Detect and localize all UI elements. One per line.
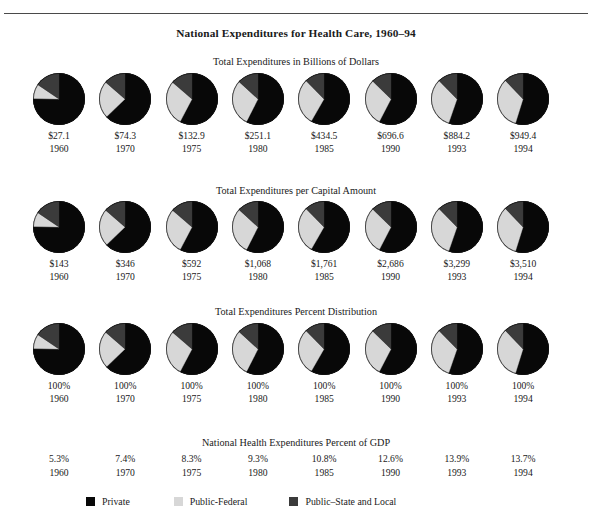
pie-value-label: 100%	[354, 379, 428, 392]
pie-value-label: $143	[22, 257, 96, 270]
pie-cell-percent-100-1980: 100%1980	[221, 323, 295, 405]
pie-cell-billions-743-1970: $74.31970	[88, 73, 162, 155]
pie-row-percent: 100%1960100%1970100%1975100%1980100%1985…	[0, 323, 592, 407]
gdp-year-label: 1970	[88, 466, 162, 480]
pie-cell-percent-100-1975: 100%1975	[155, 323, 229, 405]
gdp-value-label: 13.9%	[420, 452, 494, 466]
pie-year-label: 1985	[287, 392, 361, 405]
pie-year-label: 1980	[221, 142, 295, 155]
pie-cell-billions-4345-1985: $434.51985	[287, 73, 361, 155]
pie-value-label: 100%	[221, 379, 295, 392]
page-title: National Expenditures for Health Care, 1…	[0, 27, 592, 39]
pie-cell-per_capita-143-1960: $1431960	[22, 201, 96, 283]
pie-year-label: 1975	[155, 142, 229, 155]
gdp-year-label: 1980	[221, 466, 295, 480]
pie-year-label: 1985	[287, 142, 361, 155]
gdp-value-label: 5.3%	[22, 452, 96, 466]
legend-item-public-state-and-local: Public–State and Local	[289, 496, 396, 507]
pie-value-label: 100%	[420, 379, 494, 392]
pie-chart-percent-1990	[365, 323, 417, 375]
pie-year-label: 1990	[354, 270, 428, 283]
pie-value-label: $434.5	[287, 129, 361, 142]
pie-cell-percent-100-1993: 100%1993	[420, 323, 494, 405]
legend-swatch-private	[86, 497, 95, 506]
pie-year-label: 1993	[420, 142, 494, 155]
section-subtitle-percent: Total Expenditures Percent Distribution	[0, 306, 592, 317]
legend-label: Public–State and Local	[305, 496, 396, 507]
pie-chart-percent-1980	[232, 323, 284, 375]
pie-cell-billions-8842-1993: $884.21993	[420, 73, 494, 155]
pie-cell-per_capita-3299-1993: $3,2991993	[420, 201, 494, 283]
gdp-cell-1975: 8.3%1975	[155, 452, 229, 480]
pie-chart-billions-1980	[232, 73, 284, 125]
legend-label: Private	[102, 496, 130, 507]
section-subtitle-per-capita: Total Expenditures per Capital Amount	[0, 185, 592, 196]
pie-value-label: $346	[88, 257, 162, 270]
pie-year-label: 1960	[22, 392, 96, 405]
gdp-year-label: 1990	[354, 466, 428, 480]
pie-row-per-capita: $1431960$3461970$5921975$1,0681980$1,761…	[0, 201, 592, 285]
pie-cell-billions-9494-1994: $949.41994	[486, 73, 560, 155]
legend-item-private: Private	[86, 496, 130, 507]
gdp-cell-1994: 13.7%1994	[486, 452, 560, 480]
pie-chart-billions-1985	[298, 73, 350, 125]
gdp-year-label: 1994	[486, 466, 560, 480]
section-subtitle-gdp: National Health Expenditures Percent of …	[0, 437, 592, 448]
pie-year-label: 1970	[88, 270, 162, 283]
pie-chart-billions-1975	[166, 73, 218, 125]
legend-swatch-public-state-local	[289, 497, 298, 506]
pie-cell-per_capita-1068-1980: $1,0681980	[221, 201, 295, 283]
top-divider-rule	[4, 13, 588, 14]
pie-cell-billions-6966-1990: $696.61990	[354, 73, 428, 155]
gdp-cell-1980: 9.3%1980	[221, 452, 295, 480]
pie-cell-percent-100-1985: 100%1985	[287, 323, 361, 405]
gdp-year-label: 1975	[155, 466, 229, 480]
pie-chart-billions-1970	[99, 73, 151, 125]
pie-chart-percent-1985	[298, 323, 350, 375]
pie-chart-percent-1994	[497, 323, 549, 375]
pie-chart-per_capita-1990	[365, 201, 417, 253]
pie-value-label: 100%	[88, 379, 162, 392]
pie-chart-per_capita-1975	[166, 201, 218, 253]
gdp-cell-1960: 5.3%1960	[22, 452, 96, 480]
gdp-value-label: 10.8%	[287, 452, 361, 466]
pie-year-label: 1993	[420, 392, 494, 405]
gdp-cell-1985: 10.8%1985	[287, 452, 361, 480]
pie-cell-per_capita-346-1970: $3461970	[88, 201, 162, 283]
pie-chart-billions-1960	[33, 73, 85, 125]
pie-chart-per_capita-1980	[232, 201, 284, 253]
pie-value-label: $132.9	[155, 129, 229, 142]
pie-value-label: $696.6	[354, 129, 428, 142]
pie-chart-per_capita-1985	[298, 201, 350, 253]
pie-cell-per_capita-592-1975: $5921975	[155, 201, 229, 283]
pie-cell-billions-2511-1980: $251.11980	[221, 73, 295, 155]
pie-cell-percent-100-1970: 100%1970	[88, 323, 162, 405]
pie-chart-per_capita-1970	[99, 201, 151, 253]
pie-cell-percent-100-1960: 100%1960	[22, 323, 96, 405]
pie-value-label: $884.2	[420, 129, 494, 142]
pie-year-label: 1975	[155, 392, 229, 405]
pie-chart-per_capita-1994	[497, 201, 549, 253]
pie-year-label: 1990	[354, 392, 428, 405]
pie-cell-billions-1329-1975: $132.91975	[155, 73, 229, 155]
gdp-year-label: 1960	[22, 466, 96, 480]
gdp-value-label: 7.4%	[88, 452, 162, 466]
pie-value-label: $3,510	[486, 257, 560, 270]
legend: PrivatePublic-FederalPublic–State and Lo…	[86, 496, 396, 507]
pie-year-label: 1970	[88, 392, 162, 405]
pie-chart-percent-1960	[33, 323, 85, 375]
pie-chart-per_capita-1960	[33, 201, 85, 253]
pie-year-label: 1994	[486, 392, 560, 405]
gdp-cell-1993: 13.9%1993	[420, 452, 494, 480]
gdp-row: 5.3%19607.4%19708.3%19759.3%198010.8%198…	[0, 452, 592, 486]
health-care-expenditures-figure: National Expenditures for Health Care, 1…	[0, 0, 592, 525]
gdp-year-label: 1993	[420, 466, 494, 480]
pie-chart-percent-1970	[99, 323, 151, 375]
pie-year-label: 1980	[221, 392, 295, 405]
gdp-value-label: 12.6%	[354, 452, 428, 466]
pie-value-label: $3,299	[420, 257, 494, 270]
pie-cell-per_capita-3510-1994: $3,5101994	[486, 201, 560, 283]
pie-year-label: 1970	[88, 142, 162, 155]
pie-value-label: 100%	[22, 379, 96, 392]
pie-chart-percent-1975	[166, 323, 218, 375]
